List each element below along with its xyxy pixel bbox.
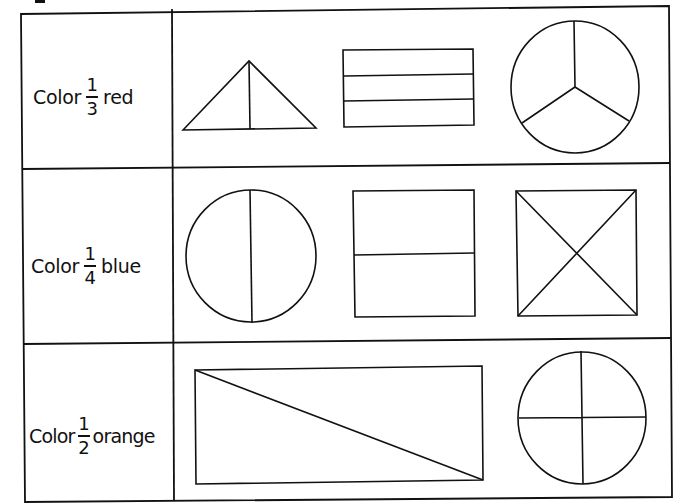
fraction-denominator: 3 [87, 99, 98, 119]
fraction-numerator: 1 [85, 244, 96, 264]
fraction-denominator: 4 [85, 268, 96, 288]
instruction-prefix: Color [29, 425, 75, 447]
fraction: 1 4 [84, 244, 96, 288]
fraction: 1 2 [78, 414, 90, 458]
row-divider-1 [22, 163, 670, 169]
rectangle-halves-shape[interactable] [353, 190, 475, 317]
instruction-prefix: Color [33, 86, 81, 108]
color-word: orange [93, 425, 155, 447]
square-quarters-diagonal-shape[interactable] [516, 190, 637, 316]
circle-thirds-shape[interactable] [511, 21, 639, 153]
rectangle-thirds-shape[interactable] [343, 49, 474, 127]
fraction-numerator: 1 [87, 75, 98, 95]
color-word: red [103, 86, 133, 108]
rectangle-halves-diagonal-shape[interactable] [195, 366, 483, 484]
fraction-numerator: 1 [78, 414, 89, 434]
instruction-label-row-2: Color 1 4 blue [31, 239, 141, 293]
instruction-label-row-1: Color 1 3 red [33, 70, 133, 124]
fraction: 1 3 [86, 75, 98, 119]
circle-halves-shape[interactable] [186, 190, 316, 323]
instruction-prefix: Color [31, 255, 79, 277]
column-divider [172, 9, 174, 501]
triangle-halves-shape[interactable] [183, 61, 316, 130]
color-word: blue [101, 255, 141, 277]
circle-quarters-shape[interactable] [518, 351, 646, 484]
instruction-label-row-3: Color 1 2 orange [29, 409, 155, 463]
fraction-denominator: 2 [78, 438, 89, 458]
row-divider-2 [23, 338, 671, 344]
